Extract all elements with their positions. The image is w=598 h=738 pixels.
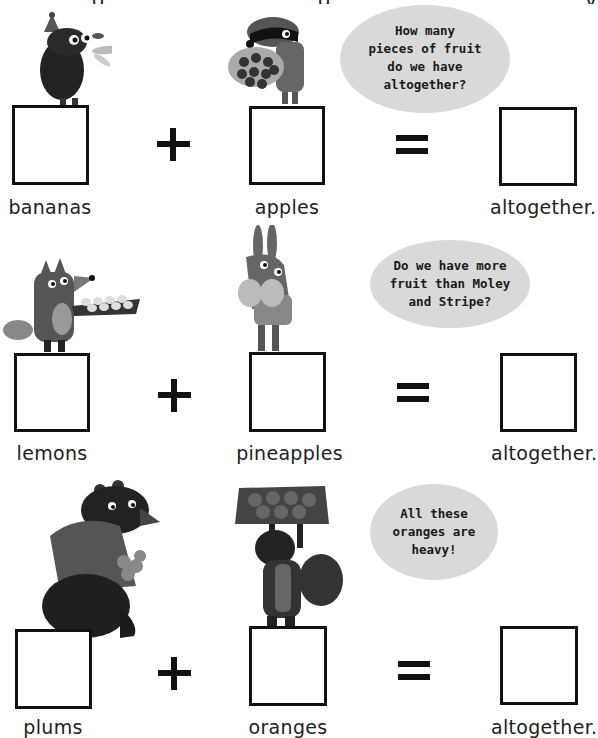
- answer-box-total-2[interactable]: [500, 353, 577, 432]
- cut-glyph: g: [318, 0, 331, 4]
- bear-character-icon: [40, 476, 165, 644]
- answer-box-oranges[interactable]: [249, 626, 327, 706]
- plus-sign-icon: [157, 128, 190, 161]
- answer-box-pineapples[interactable]: [249, 352, 326, 432]
- equals-sign-icon: [396, 135, 428, 155]
- mole-character-icon: [22, 12, 112, 107]
- bubble-line: How many: [340, 22, 510, 40]
- bubble-line: heavy!: [370, 541, 498, 559]
- bubble-line: oranges are: [370, 523, 498, 541]
- label-plums: plums: [3, 716, 103, 738]
- cut-glyph: g: [92, 0, 105, 4]
- plus-sign-icon: [158, 379, 191, 412]
- bubble-line: pieces of fruit: [340, 40, 510, 58]
- answer-box-total-3[interactable]: [500, 626, 578, 705]
- label-altogether-2: altogether.: [491, 442, 596, 464]
- label-pineapples: pineapples: [232, 442, 347, 464]
- rabbit-character-icon: [232, 225, 312, 355]
- fox-character-icon: [2, 254, 142, 354]
- label-lemons: lemons: [2, 442, 102, 464]
- answer-box-bananas[interactable]: [12, 105, 89, 185]
- bubble-line: fruit than Moley: [370, 275, 530, 293]
- answer-box-lemons[interactable]: [14, 353, 90, 432]
- bubble-line: All these: [370, 505, 498, 523]
- answer-box-total-1[interactable]: [499, 107, 577, 186]
- top-cut-text: g g y: [0, 0, 598, 4]
- cut-glyph: y: [585, 0, 597, 4]
- label-bananas: bananas: [0, 196, 100, 218]
- bubble-line: Do we have more: [370, 257, 530, 275]
- bubble-line: do we have: [340, 58, 510, 76]
- label-altogether-3: altogether.: [491, 716, 596, 738]
- label-apples: apples: [237, 196, 337, 218]
- label-altogether-1: altogether.: [490, 196, 595, 218]
- answer-box-plums[interactable]: [15, 629, 92, 709]
- plus-sign-icon: [158, 657, 191, 690]
- answer-box-apples[interactable]: [249, 106, 325, 185]
- bubble-line: and Stripe?: [370, 293, 530, 311]
- label-oranges: oranges: [238, 716, 338, 738]
- equals-sign-icon: [397, 383, 429, 403]
- squirrel-character-icon: [235, 478, 345, 628]
- equals-sign-icon: [398, 661, 430, 681]
- badger-character-icon: [228, 12, 318, 107]
- bubble-line: altogether?: [340, 76, 510, 94]
